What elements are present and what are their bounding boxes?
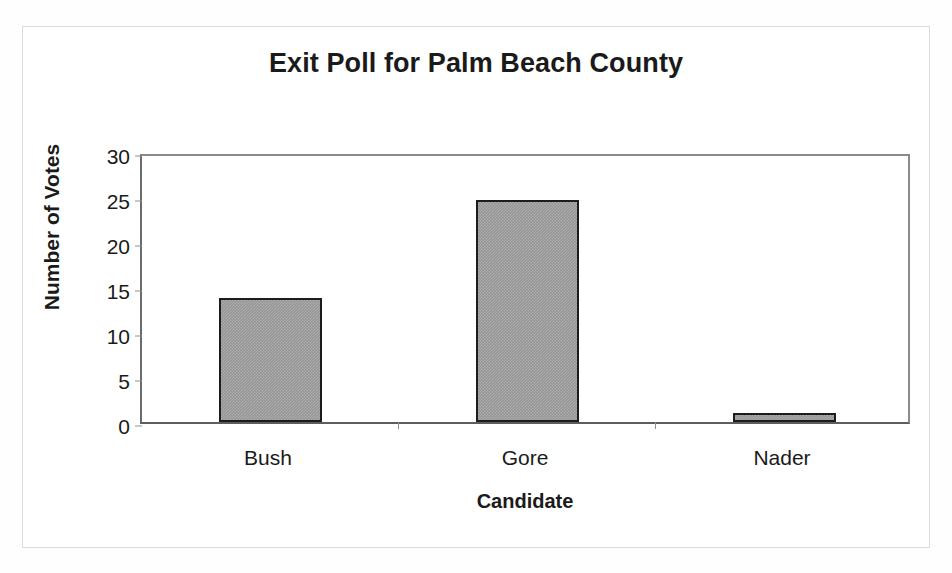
y-tick-mark-10 [135,336,142,337]
y-tick-mark-0 [135,426,142,427]
x-tick-label-bush: Bush [244,446,292,470]
y-tick-mark-5 [135,381,142,382]
plot-area: 30 25 20 15 10 5 0 [140,154,910,424]
bar-bush [219,298,322,422]
bars-layer [142,156,908,422]
bar-gore [476,200,579,422]
x-tick-label-gore: Gore [502,446,549,470]
x-tick-label-nader: Nader [753,446,810,470]
x-tick-mark-1 [398,422,399,429]
y-tick-mark-20 [135,246,142,247]
y-tick-mark-15 [135,291,142,292]
bar-nader [733,413,836,422]
x-tick-mark-2 [655,422,656,429]
y-tick-mark-25 [135,201,142,202]
y-tick-mark-30 [135,156,142,157]
chart-title: Exit Poll for Palm Beach County [0,48,952,79]
y-axis-title: Number of Votes [40,127,64,327]
x-axis-title: Candidate [140,490,910,513]
chart-page: Exit Poll for Palm Beach County Number o… [0,0,952,573]
